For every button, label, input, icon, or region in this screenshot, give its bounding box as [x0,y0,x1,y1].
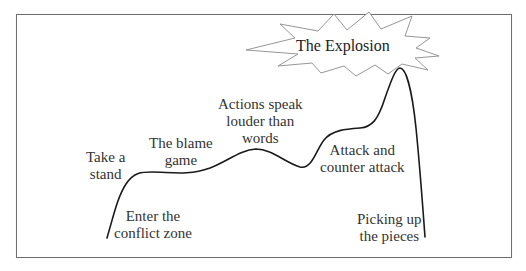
stage-label-line: stand [86,166,125,183]
stage-label-line: game [149,152,213,169]
stage-label-the-blame-game: The blame game [149,135,213,169]
stage-label-line: the pieces [357,228,422,245]
stage-label-line: Picking up [357,211,422,228]
stage-label-line: words [218,130,303,147]
stage-label-line: counter attack [320,159,405,176]
stage-label-the-explosion: The Explosion [296,37,390,55]
stage-label-line: Enter the [114,208,192,225]
stage-label-take-a-stand: Take a stand [86,149,125,183]
stage-label-enter-the-conflict-zone: Enter the conflict zone [114,208,192,242]
stage-label-actions-speak-louder-than-words: Actions speak louder than words [218,96,303,147]
stage-label-line: louder than [218,113,303,130]
stage-label-line: The Explosion [296,37,390,54]
stage-label-line: Take a [86,149,125,166]
stage-label-attack-and-counter-attack: Attack and counter attack [320,142,405,176]
stage-label-picking-up-the-pieces: Picking up the pieces [357,211,422,245]
stage-label-line: Actions speak [218,96,303,113]
stage-label-line: conflict zone [114,225,192,242]
stage-label-line: The blame [149,135,213,152]
stage-label-line: Attack and [320,142,405,159]
